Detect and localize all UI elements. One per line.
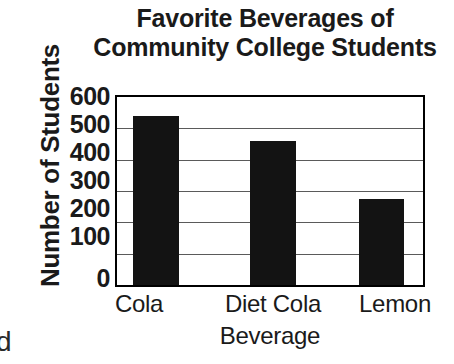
bar-cola bbox=[133, 116, 179, 285]
y-tick-label-200: 200 bbox=[0, 196, 110, 221]
page-edge-fragment: d bbox=[0, 326, 12, 358]
bar-lemon bbox=[359, 199, 404, 285]
y-tick-label-400: 400 bbox=[0, 140, 110, 165]
x-tick-label-diet-cola: Diet Cola bbox=[200, 292, 346, 316]
bar-chart-figure: Favorite Beverages of Community College … bbox=[0, 0, 454, 364]
y-tick-label-600: 600 bbox=[0, 84, 110, 109]
x-tick-label-cola: Cola bbox=[96, 292, 182, 316]
bar-diet-cola bbox=[250, 141, 296, 285]
y-tick-label-300: 300 bbox=[0, 168, 110, 193]
x-tick-label-lemon: Lemon bbox=[340, 292, 450, 316]
y-tick-label-0: 0 bbox=[0, 266, 110, 291]
plot-area bbox=[115, 95, 425, 287]
x-axis-title: Beverage bbox=[115, 322, 425, 350]
y-tick-label-100: 100 bbox=[0, 224, 110, 249]
y-tick-label-500: 500 bbox=[0, 112, 110, 137]
